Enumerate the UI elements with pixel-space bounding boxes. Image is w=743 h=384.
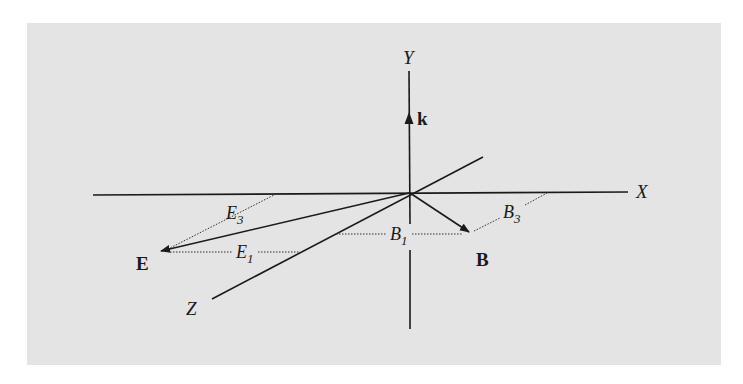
- b-vector: [410, 193, 469, 232]
- z-axis: [212, 157, 483, 299]
- e1-component-label: E1: [235, 242, 254, 266]
- b-vector-label: B: [476, 249, 489, 270]
- e3-component-label: E3: [225, 203, 244, 227]
- x-axis: [93, 192, 628, 195]
- b3-component-label: B3: [503, 202, 521, 226]
- x-axis-label: X: [635, 181, 649, 202]
- b3-projection-line-upper: [525, 193, 547, 205]
- e3-projection-line: [170, 194, 276, 248]
- k-arrowhead-icon: [405, 112, 414, 124]
- e-vector: [161, 193, 409, 251]
- k-vector-label: k: [417, 108, 428, 129]
- z-axis-label: Z: [186, 298, 197, 319]
- b1-component-label: B1: [390, 224, 408, 248]
- b3-projection-line: [474, 218, 500, 231]
- e-vector-label: E: [136, 253, 149, 274]
- coordinate-diagram: Y X Z k E B E3 E1 B1 B3: [0, 0, 743, 384]
- y-axis-label: Y: [403, 47, 416, 68]
- y-axis-upper: [409, 71, 410, 224]
